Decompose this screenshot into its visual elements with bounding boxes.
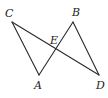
label-A: A xyxy=(33,79,42,92)
diagram-svg: C B E A D xyxy=(0,0,108,98)
label-B: B xyxy=(71,6,80,19)
label-D: D xyxy=(95,79,105,92)
segment-AB xyxy=(39,22,73,75)
label-E: E xyxy=(49,34,58,47)
label-C: C xyxy=(5,7,14,20)
geometry-diagram: C B E A D xyxy=(0,0,108,98)
